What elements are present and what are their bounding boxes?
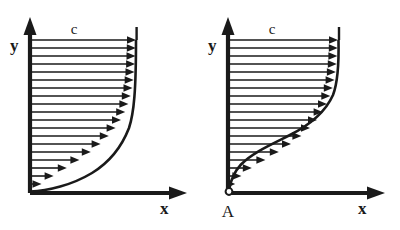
left-freestream-label: c bbox=[71, 21, 78, 37]
separation-point-marker bbox=[226, 188, 233, 195]
flow-arrow bbox=[30, 60, 135, 68]
flow-arrow bbox=[30, 164, 67, 172]
flow-arrow bbox=[228, 140, 291, 148]
flow-arrow bbox=[228, 76, 335, 84]
flow-arrow bbox=[228, 108, 323, 116]
flow-arrow bbox=[30, 108, 125, 116]
flow-arrow bbox=[228, 44, 338, 52]
flow-arrow bbox=[228, 68, 336, 76]
left-flow-arrows bbox=[30, 36, 136, 188]
flow-arrow bbox=[30, 76, 134, 84]
flow-arrow bbox=[30, 148, 91, 156]
flow-arrow bbox=[30, 116, 121, 124]
left-y-axis-arrowhead-icon bbox=[24, 17, 37, 35]
left-x-axis-arrowhead-icon bbox=[169, 187, 187, 200]
flow-arrow bbox=[30, 36, 136, 44]
flow-arrow bbox=[30, 84, 133, 92]
flow-arrow bbox=[30, 132, 109, 140]
left-panel: y x c bbox=[10, 17, 187, 218]
flow-arrow bbox=[228, 92, 330, 100]
flow-arrow bbox=[30, 68, 135, 76]
flow-arrow bbox=[30, 92, 131, 100]
flow-arrow bbox=[228, 100, 327, 108]
flow-arrow bbox=[228, 84, 333, 92]
figure-canvas: y x c bbox=[0, 0, 400, 230]
flow-arrow bbox=[30, 172, 54, 180]
flow-arrow bbox=[30, 156, 79, 164]
flow-arrow bbox=[30, 44, 136, 52]
right-y-axis-arrowhead-icon bbox=[222, 17, 235, 35]
left-y-axis-label: y bbox=[10, 36, 19, 55]
right-panel: y x c A bbox=[208, 17, 385, 221]
right-y-axis-label: y bbox=[208, 36, 217, 55]
left-x-axis-label: x bbox=[160, 199, 169, 218]
right-x-axis-label: x bbox=[358, 199, 367, 218]
right-freestream-label: c bbox=[269, 21, 276, 37]
flow-arrow bbox=[228, 60, 337, 68]
flow-arrow bbox=[30, 124, 116, 132]
flow-arrow bbox=[30, 140, 101, 148]
velocity-profile-figure: y x c bbox=[0, 0, 400, 230]
flow-arrow bbox=[30, 100, 128, 108]
flow-arrow bbox=[228, 116, 317, 124]
flow-arrow bbox=[228, 36, 338, 44]
separation-point-label: A bbox=[222, 202, 235, 221]
flow-arrow bbox=[228, 52, 337, 60]
right-x-axis-arrowhead-icon bbox=[367, 187, 385, 200]
flow-arrow bbox=[30, 52, 136, 60]
